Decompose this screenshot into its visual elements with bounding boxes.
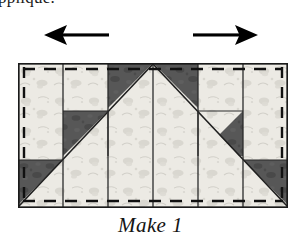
caption-make-count: Make 1 [0,213,301,238]
left-arrow-icon [42,22,110,48]
truncated-text-above: ppliqué. [0,0,55,8]
press-left-arrow [42,22,110,52]
press-right-arrow [192,22,260,52]
pieced-unit-svg [18,63,288,208]
diagram-page: ppliqué. [0,0,301,247]
right-arrow-icon [192,22,260,48]
pieced-unit-diagram [18,63,288,208]
